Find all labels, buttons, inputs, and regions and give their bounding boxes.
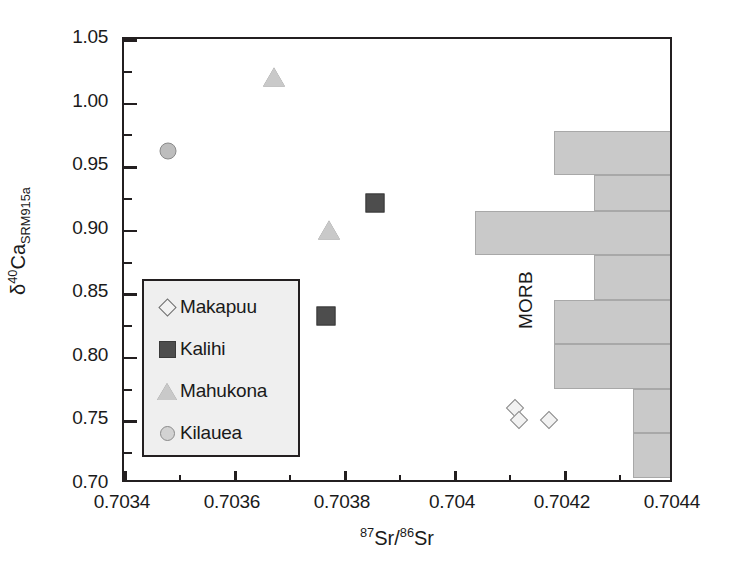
y-tick-minor	[124, 452, 132, 454]
x-tick-label: 0.7034	[62, 491, 182, 513]
x-tick-major	[564, 471, 567, 482]
y-tick-label: 1.05	[28, 26, 108, 48]
x-axis-title-sr-2: Sr	[414, 527, 434, 549]
x-tick-minor	[399, 475, 401, 482]
legend-label: Mahukona	[180, 380, 267, 402]
x-axis-title-sup-87: 87	[360, 525, 374, 540]
histogram-bar	[554, 344, 672, 389]
y-axis-title: δ40CaSRM915a	[7, 187, 30, 295]
x-axis-title: 87Sr/86Sr	[360, 527, 434, 550]
histogram-bar	[594, 175, 672, 211]
legend-label: Kilauea	[180, 422, 242, 444]
legend-label: Makapuu	[180, 296, 257, 318]
y-tick-label: 0.75	[28, 407, 108, 429]
legend-marker-filled-triangle-icon	[154, 380, 180, 402]
data-point-kalihi	[366, 194, 385, 213]
x-tick-minor	[509, 475, 511, 482]
x-tick-major	[234, 471, 237, 482]
data-point-mahukona	[318, 220, 340, 239]
x-tick-label: 0.7044	[612, 491, 732, 513]
legend-marker-open-diamond-icon	[154, 296, 180, 318]
y-axis-title-delta: δ	[7, 284, 29, 295]
morb-annotation-label: MORB	[515, 271, 537, 329]
y-tick-minor	[124, 389, 132, 391]
x-tick-major	[454, 471, 457, 482]
y-tick-label: 0.90	[28, 217, 108, 239]
y-tick-minor	[124, 134, 132, 136]
y-tick-major	[124, 166, 137, 169]
y-tick-major	[124, 39, 137, 42]
x-tick-minor	[179, 475, 181, 482]
legend-label: Kalihi	[180, 338, 225, 360]
x-tick-major	[124, 471, 127, 482]
y-tick-major	[124, 230, 137, 233]
histogram-bar	[633, 389, 672, 434]
y-tick-major	[124, 420, 137, 423]
y-tick-minor	[124, 198, 132, 200]
legend-swatch-shape	[157, 383, 177, 400]
y-tick-label: 0.95	[28, 153, 108, 175]
x-tick-label: 0.7042	[502, 491, 622, 513]
histogram-bar	[554, 131, 672, 176]
x-tick-minor	[289, 475, 291, 482]
y-tick-label: 1.00	[28, 90, 108, 112]
histogram-bar	[475, 211, 672, 256]
y-tick-label: 0.85	[28, 280, 108, 302]
y-axis-title-element: Ca	[7, 244, 29, 270]
histogram-bar	[554, 300, 672, 345]
x-tick-label: 0.704	[392, 491, 512, 513]
legend-marker-filled-circle-icon	[154, 422, 180, 444]
legend-item-makapuu[interactable]: Makapuu	[154, 295, 257, 319]
legend-swatch-shape	[160, 426, 175, 441]
histogram-bar	[594, 255, 672, 300]
figure-root: δ40CaSRM915a 87Sr/86Sr MORB MakapuuKalih…	[0, 0, 732, 585]
y-tick-minor	[124, 71, 132, 73]
y-tick-label: 0.80	[28, 344, 108, 366]
data-point-mahukona	[263, 68, 285, 87]
x-axis-title-sr-1: Sr	[374, 527, 394, 549]
data-point-kalihi	[317, 307, 336, 326]
y-tick-label: 0.70	[28, 471, 108, 493]
y-tick-minor	[124, 325, 132, 327]
legend-swatch-shape	[158, 298, 176, 316]
y-tick-major	[124, 293, 137, 296]
x-tick-major	[344, 471, 347, 482]
y-tick-major	[124, 357, 137, 360]
legend-item-mahukona[interactable]: Mahukona	[154, 379, 267, 403]
legend-swatch-shape	[159, 341, 176, 358]
legend-marker-filled-square-icon	[154, 338, 180, 360]
legend-item-kilauea[interactable]: Kilauea	[154, 421, 242, 445]
legend: MakapuuKalihiMahukonaKilauea	[142, 279, 300, 457]
legend-item-kalihi[interactable]: Kalihi	[154, 337, 225, 361]
histogram-bar	[633, 433, 672, 478]
x-axis-title-sup-86: 86	[400, 525, 414, 540]
x-tick-label: 0.7036	[172, 491, 292, 513]
x-tick-label: 0.7038	[282, 491, 402, 513]
y-axis-title-superscript: 40	[5, 270, 20, 284]
data-point-makapuu	[539, 411, 557, 429]
x-tick-minor	[619, 475, 621, 482]
plot-area: MORB MakapuuKalihiMahukonaKilauea	[122, 37, 672, 482]
y-tick-major	[124, 103, 137, 106]
y-tick-minor	[124, 262, 132, 264]
data-point-kilauea	[160, 142, 177, 159]
